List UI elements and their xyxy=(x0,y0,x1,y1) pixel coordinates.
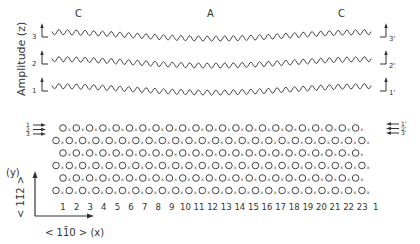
atom xyxy=(266,137,273,144)
atom xyxy=(146,137,153,144)
interstitial-marker: x xyxy=(61,190,64,195)
atom xyxy=(119,187,126,194)
atom xyxy=(352,125,359,132)
atom xyxy=(246,150,253,157)
atom xyxy=(252,137,259,144)
interstitial-marker: x xyxy=(134,152,137,157)
atom xyxy=(332,162,339,169)
interstitial-marker: x xyxy=(95,152,98,157)
interstitial-marker: x xyxy=(228,127,231,132)
column-number: 19 xyxy=(302,202,313,212)
interstitial-marker: x xyxy=(201,127,204,132)
atom xyxy=(206,125,213,132)
interstitial-marker: x xyxy=(354,190,357,195)
interstitial-marker: x xyxy=(234,190,237,195)
atom xyxy=(193,175,200,182)
atom xyxy=(319,137,326,144)
left-amplitude-bracket xyxy=(42,81,48,91)
column-number: 1 xyxy=(60,202,65,212)
atom xyxy=(153,125,160,132)
wave-right-label: 3' xyxy=(389,35,395,43)
atom xyxy=(146,187,153,194)
atom xyxy=(60,175,67,182)
atom xyxy=(119,137,126,144)
interstitial-marker: x xyxy=(241,177,244,182)
atom xyxy=(259,125,266,132)
atom xyxy=(106,137,113,144)
interstitial-marker: x xyxy=(161,152,164,157)
interstitial-marker: x xyxy=(334,177,337,182)
atom xyxy=(79,162,86,169)
x-axis-label: < 11̄0 > (x) xyxy=(45,226,104,238)
atom xyxy=(239,162,246,169)
interstitial-marker: x xyxy=(188,127,191,132)
arrow-left-icon xyxy=(386,131,391,135)
arrow-left-icon xyxy=(386,127,391,131)
interstitial-marker: x xyxy=(148,127,151,132)
interstitial-marker: x xyxy=(101,190,104,195)
interstitial-marker: x xyxy=(74,165,77,170)
atom xyxy=(312,175,319,182)
atom xyxy=(66,162,73,169)
row-arrow-label: 3 xyxy=(26,130,30,137)
interstitial-marker: x xyxy=(201,177,204,182)
interstitial-marker: x xyxy=(334,127,337,132)
interstitial-marker: x xyxy=(361,152,364,157)
interstitial-marker: x xyxy=(354,140,357,145)
atom xyxy=(159,137,166,144)
atom xyxy=(66,137,73,144)
atom xyxy=(179,150,186,157)
atom xyxy=(159,187,166,194)
interstitial-marker: x xyxy=(254,127,257,132)
interstitial-marker: x xyxy=(74,190,77,195)
interstitial-marker: x xyxy=(241,152,244,157)
atom xyxy=(273,125,280,132)
interstitial-marker: x xyxy=(141,165,144,170)
interstitial-marker: x xyxy=(188,177,191,182)
interstitial-marker: x xyxy=(307,127,310,132)
atom xyxy=(66,187,73,194)
interstitial-marker: x xyxy=(88,165,91,170)
atom xyxy=(319,187,326,194)
interstitial-marker: x xyxy=(228,177,231,182)
atom xyxy=(119,162,126,169)
interstitial-marker: x xyxy=(174,177,177,182)
atom xyxy=(140,175,147,182)
wave-lines: 33'22'11' xyxy=(32,23,395,97)
atom xyxy=(233,175,240,182)
atom xyxy=(326,150,333,157)
atom xyxy=(319,162,326,169)
interstitial-marker: x xyxy=(154,165,157,170)
atom xyxy=(113,150,120,157)
interstitial-marker: x xyxy=(274,165,277,170)
interstitial-marker: x xyxy=(148,152,151,157)
interstitial-marker: x xyxy=(294,152,297,157)
atom xyxy=(359,162,366,169)
atom xyxy=(179,175,186,182)
interstitial-marker: x xyxy=(267,177,270,182)
interstitial-marker: x xyxy=(334,152,337,157)
arrow-up-icon xyxy=(40,23,43,28)
interstitial-marker: x xyxy=(74,140,77,145)
column-number: 17 xyxy=(275,202,286,212)
atom xyxy=(73,150,80,157)
column-number: 4 xyxy=(101,202,106,212)
row-arrow-label: 3' xyxy=(401,129,407,136)
interstitial-marker: x xyxy=(314,140,317,145)
diagram-canvas: Amplitude (z) CAC 33'22'11' 123 1'2'3' x… xyxy=(0,0,420,244)
interstitial-marker: x xyxy=(95,127,98,132)
interstitial-marker: x xyxy=(247,190,250,195)
arrow-up-icon xyxy=(384,50,387,55)
atom xyxy=(153,175,160,182)
arrow-right-icon xyxy=(41,123,46,127)
interstitial-marker: x xyxy=(247,165,250,170)
interstitial-marker: x xyxy=(61,140,64,145)
interstitial-marker: x xyxy=(247,140,250,145)
atom xyxy=(345,162,352,169)
atom xyxy=(326,125,333,132)
atom xyxy=(73,125,80,132)
arrow-up-icon xyxy=(40,50,43,55)
interstitial-marker: x xyxy=(114,190,117,195)
interstitial-marker: x xyxy=(260,140,263,145)
interstitial-marker: x xyxy=(287,165,290,170)
